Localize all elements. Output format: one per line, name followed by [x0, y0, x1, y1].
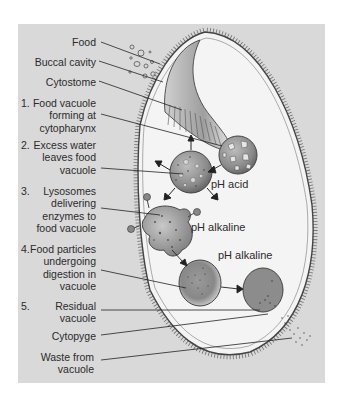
step-3-label: Lysosomes delivering enzymes to food vac…	[36, 185, 96, 234]
step-4-number: 4.	[21, 243, 30, 255]
label-waste: Waste from vacuole	[41, 351, 94, 376]
step-1-number: 1.	[21, 97, 30, 109]
food-vacuole-forming	[219, 136, 257, 174]
label-cytopyge: Cytopyge	[52, 330, 96, 342]
ph-alkaline-label-2: pH alkaline	[218, 249, 272, 261]
ph-alkaline-label-1: pH alkaline	[191, 221, 245, 233]
step-3-number: 3.	[21, 185, 30, 197]
ph-acid-label: pH acid	[211, 178, 248, 190]
step-5-number: 5.	[21, 300, 30, 312]
step-4-label: Food particles undergoing digestion in v…	[30, 243, 96, 292]
cell-membrane	[138, 32, 313, 355]
digestion-vacuole	[179, 260, 221, 306]
step-2-label: Excess water leaves food vacuole	[34, 139, 96, 176]
residual-vacuole	[243, 268, 283, 312]
step-2-number: 2.	[21, 139, 30, 151]
step-1-label: Food vacuole forming at cytopharynx	[33, 97, 96, 134]
label-cytostome: Cytostome	[46, 76, 96, 88]
step-5-label: Residual vacuole	[55, 300, 96, 325]
food-particles	[129, 45, 155, 78]
label-buccal-cavity: Buccal cavity	[35, 56, 96, 68]
label-food: Food	[72, 36, 96, 48]
